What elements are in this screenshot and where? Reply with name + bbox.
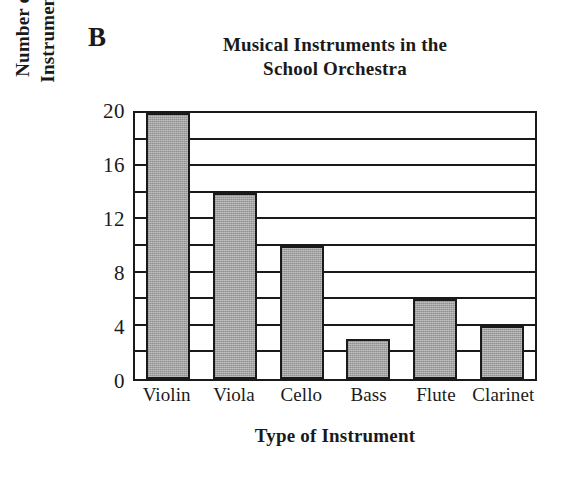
x-axis-tick-label: Flute [402,385,469,406]
x-axis-tick-label: Bass [335,385,402,406]
chart-title: Musical Instruments in the School Orches… [133,33,537,82]
y-axis-title-line-1: Number of [11,0,36,83]
y-axis-tick-label: 20 [83,101,125,122]
bar-slot [202,113,269,379]
y-axis-tick-label: 0 [83,371,125,392]
bar-slot [468,113,535,379]
bar-slot [135,113,202,379]
x-axis-tick-label: Clarinet [470,385,537,406]
plot-area [133,111,537,381]
bar-violin [146,113,190,379]
bar-bass [346,339,390,379]
bar-slot [402,113,469,379]
x-axis-title: Type of Instrument [133,425,537,447]
panel-label: B [88,24,107,51]
bar-slot [268,113,335,379]
chart-title-line-2: School Orchestra [133,57,537,81]
chart-title-line-1: Musical Instruments in the [133,33,537,57]
bar-clarinet [480,326,524,379]
x-axis-tick-label: Cello [268,385,335,406]
bar-flute [413,299,457,379]
y-axis-tick-label: 16 [83,155,125,176]
y-axis-tick-label: 4 [83,317,125,338]
y-axis-tick-label: 12 [83,209,125,230]
bar-slot [335,113,402,379]
bar-viola [213,193,257,379]
x-axis-tick-label: Viola [200,385,267,406]
bar-cello [280,246,324,379]
y-axis-tick-label: 8 [83,263,125,284]
bars-layer [135,113,535,379]
y-axis-tick-labels: 048121620 [79,111,125,381]
y-axis-title-line-2: Instruments [36,0,61,83]
x-axis-tick-labels: ViolinViolaCelloBassFluteClarinet [133,385,537,406]
x-axis-tick-label: Violin [133,385,200,406]
y-axis-title: Number of Instruments [8,0,64,167]
